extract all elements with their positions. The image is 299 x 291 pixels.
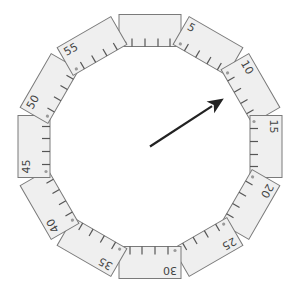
arrow-shaft xyxy=(150,106,212,146)
ruler-segment: 10 xyxy=(221,54,280,124)
ruler-segment: 30 xyxy=(119,247,181,279)
ruler-segment: 25 xyxy=(173,218,243,277)
segment-start-dot xyxy=(173,249,176,252)
segment-label: 45 xyxy=(20,160,33,174)
ruler-segment: 40 xyxy=(20,170,79,240)
pointer-arrow[interactable] xyxy=(150,99,224,147)
ruler-segment xyxy=(119,15,181,47)
ruler-segment: 55 xyxy=(57,17,127,76)
ruler-segment: 15 xyxy=(250,116,282,178)
arrow-head-icon xyxy=(207,99,224,114)
segment-label: 30 xyxy=(163,264,177,277)
ruler-dial: 510152025303540455055 xyxy=(0,0,299,291)
segment-start-dot xyxy=(44,170,47,173)
segment-label: 15 xyxy=(267,120,280,134)
segment-body xyxy=(119,15,181,47)
segment-start-dot xyxy=(252,120,255,123)
ruler-segment: 45 xyxy=(18,116,50,178)
